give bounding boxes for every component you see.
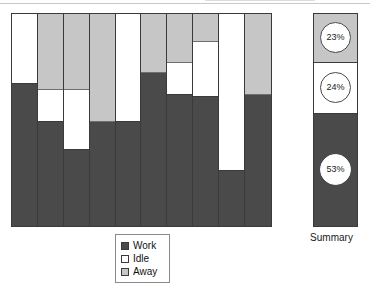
summary-panel: 23%24%53% Summary: [313, 13, 358, 243]
summary-percent-bubble-away: 23%: [320, 22, 351, 53]
bar-segment-idle: [219, 14, 244, 171]
bar-segment-idle: [193, 42, 218, 97]
legend-item-away[interactable]: Away: [121, 265, 164, 278]
bar-segment-work: [141, 73, 166, 226]
bar-segment-work: [245, 95, 271, 226]
summary-segment-away: 23%: [314, 14, 357, 63]
legend-swatch-away-icon: [121, 268, 129, 276]
bar-segment-work: [116, 122, 141, 226]
bar-column[interactable]: [12, 14, 38, 226]
top-divider-rule-secondary: [205, 0, 315, 1]
bar-segment-away: [245, 14, 271, 95]
bar-segment-work: [167, 95, 192, 226]
bar-column[interactable]: [193, 14, 219, 226]
legend-label-away: Away: [133, 266, 157, 277]
bar-segment-away: [167, 14, 192, 63]
bar-column[interactable]: [38, 14, 64, 226]
legend-label-work: Work: [133, 240, 156, 251]
legend-item-work[interactable]: Work: [121, 239, 164, 252]
bar-segment-work: [219, 171, 244, 226]
legend-swatch-work-icon: [121, 242, 129, 250]
legend-label-idle: Idle: [133, 253, 149, 264]
bar-segment-idle: [38, 90, 63, 122]
legend-swatch-idle-icon: [121, 255, 129, 263]
summary-segment-work: 53%: [314, 114, 357, 226]
bar-column[interactable]: [116, 14, 142, 226]
bar-column[interactable]: [167, 14, 193, 226]
bar-segment-work: [38, 122, 63, 226]
bar-segment-work: [12, 84, 37, 226]
stacked-bar-chart: [11, 13, 272, 227]
bar-column[interactable]: [245, 14, 271, 226]
bar-segment-idle: [64, 90, 89, 149]
bar-column[interactable]: [90, 14, 116, 226]
bar-segment-idle: [167, 63, 192, 95]
summary-label: Summary: [309, 232, 354, 243]
summary-percent-bubble-work: 53%: [320, 154, 351, 185]
bar-column[interactable]: [219, 14, 245, 226]
bar-segment-away: [64, 14, 89, 90]
bar-segment-idle: [116, 14, 141, 122]
summary-stacked-bar: 23%24%53%: [313, 13, 358, 227]
summary-segment-idle: 24%: [314, 63, 357, 114]
chart-legend: Work Idle Away: [115, 234, 170, 283]
bar-segment-away: [193, 14, 218, 42]
bar-segment-work: [90, 122, 115, 226]
bar-column[interactable]: [64, 14, 90, 226]
bar-segment-work: [64, 150, 89, 226]
bar-segment-away: [141, 14, 166, 73]
bar-column[interactable]: [141, 14, 167, 226]
top-divider-rule: [0, 3, 370, 4]
bar-segment-idle: [12, 14, 37, 84]
bar-segment-away: [38, 14, 63, 90]
legend-item-idle[interactable]: Idle: [121, 252, 164, 265]
summary-percent-bubble-idle: 24%: [320, 72, 351, 103]
bar-segment-away: [90, 14, 115, 122]
bar-segment-work: [193, 97, 218, 226]
